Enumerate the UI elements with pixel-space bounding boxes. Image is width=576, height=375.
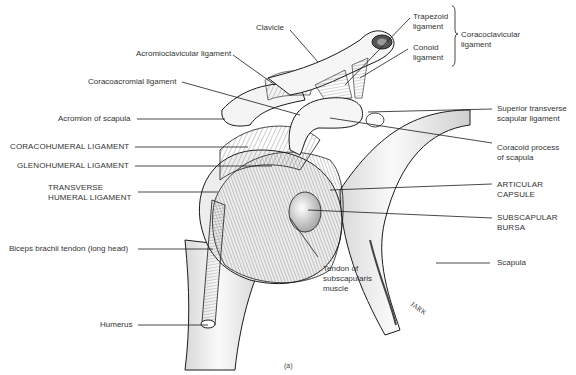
label-glenohumeral-ligament: GLENOHUMERAL LIGAMENT [17,161,129,171]
coracoclavicular-brace [452,6,458,66]
figure-caption: (a) [284,362,293,369]
label-transverse-humeral-ligament: TRANSVERSE HUMERAL LIGAMENT [48,183,132,203]
label-acromioclavicular-ligament: Acromioclavicular ligament [136,49,231,59]
coracoid-process-shape [289,98,362,155]
label-acromion-of-scapula: Acromion of scapula [58,114,130,124]
label-clavicle: Clavicle [256,23,284,33]
label-humerus: Humerus [100,320,132,330]
label-coracohumeral-ligament: CORACOHUMERAL LIGAMENT [10,142,129,152]
scapula-shape [340,110,470,335]
label-coracoacromial-ligament: Coracoacromial ligament [88,77,176,87]
label-tendon-of-subscapularis-muscle: Tendon of subscapularis muscle [323,264,372,294]
label-biceps-brachii-tendon: Biceps brachii tendon (long head) [9,244,128,254]
label-superior-transverse-scapular-ligament: Superior transverse scapular ligament [497,104,567,124]
label-articular-capsule: ARTICULAR CAPSULE [497,180,543,200]
label-coracoid-process-of-scapula: Coracoid process of scapula [497,143,559,163]
label-scapula: Scapula [497,258,526,268]
subscapular-bursa-shape [289,192,321,232]
label-subscapular-bursa: SUBSCAPULAR BURSA [497,213,558,233]
artist-signature: JARK [409,300,428,317]
label-conoid-ligament: Conoid ligament [413,43,443,63]
label-coracoclavicular-ligament: Coracoclavicular ligament [461,30,520,50]
label-trapezoid-ligament: Trapezoid ligament [413,12,448,32]
shoulder-joint-diagram: JARK Clavicle Acromioclavicular ligament… [0,0,576,375]
